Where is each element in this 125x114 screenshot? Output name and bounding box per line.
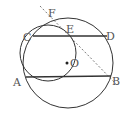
label-A: A xyxy=(12,76,22,89)
label-D: D xyxy=(106,30,115,43)
segment-AB xyxy=(26,76,111,77)
label-B: B xyxy=(112,75,120,88)
label-F: F xyxy=(48,7,56,20)
label-E: E xyxy=(66,23,74,36)
label-C: C xyxy=(23,31,31,44)
center-point-O xyxy=(66,62,69,65)
geometry-diagram: A B C D E F O xyxy=(0,0,125,114)
label-O: O xyxy=(70,57,79,70)
